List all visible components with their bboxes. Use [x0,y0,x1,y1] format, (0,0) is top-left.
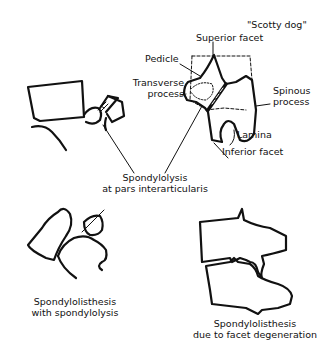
vertebra-bottom-right [200,209,292,314]
scotty-dog-pars-hatch [212,88,223,104]
label-superior-facet: Superior facet [196,32,263,43]
scotty-dog-annotation: "Scotty dog" [247,19,307,30]
label-spinous-process: Spinous process [273,85,311,107]
scotty-dog-outline-dashed [190,56,252,110]
label-spondylolysis: Spondylolysis at pars interarticularis [90,172,220,194]
label-pedicle: Pedicle [145,53,179,64]
lateral-vertebra-top-left [28,81,124,150]
label-inferior-facet: Inferior facet [222,146,283,157]
label-lamina: Lamina [237,129,272,140]
caption-right: Spondylolisthesis due to facet degenerat… [180,318,330,340]
label-transverse-process: Transverse process [130,77,184,99]
caption-left: Spondylolisthesis with spondylolysis [10,296,140,318]
